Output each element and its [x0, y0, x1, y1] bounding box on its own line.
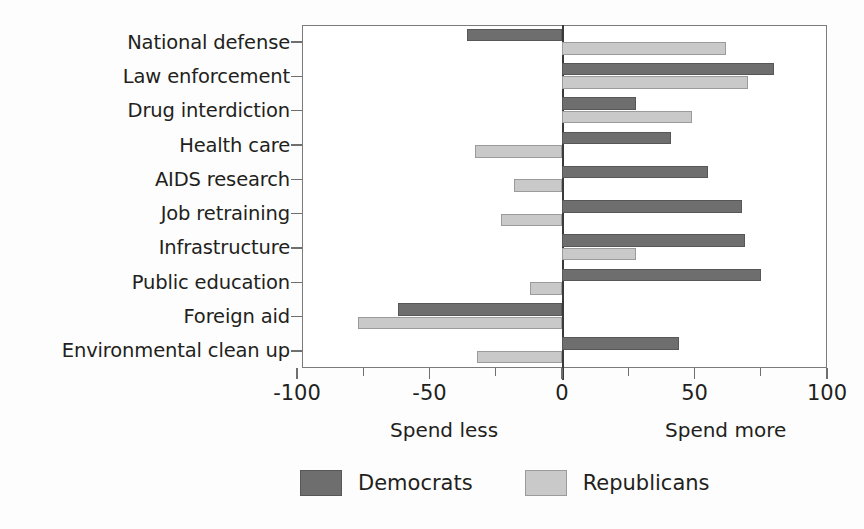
- x-axis-tick: [429, 368, 430, 379]
- y-axis-label: National defense: [127, 31, 302, 54]
- y-axis-label: Environmental clean up: [62, 339, 302, 362]
- x-axis-tick-label: -50: [385, 381, 475, 405]
- bar-rep-7: [530, 282, 562, 295]
- spend-more-note: Spend more: [665, 418, 786, 442]
- bar-dem-8: [398, 303, 562, 316]
- y-axis-category-row: Foreign aid: [0, 299, 302, 333]
- y-axis-category-row: National defense: [0, 25, 302, 59]
- bar-rep-0: [562, 42, 726, 55]
- x-axis-tick: [296, 368, 297, 379]
- y-axis-category-row: Environmental clean up: [0, 334, 302, 368]
- y-axis-tick: [291, 350, 302, 351]
- bar-rep-9: [477, 351, 562, 364]
- bar-rep-2: [562, 111, 692, 124]
- bar-rep-4: [514, 179, 562, 192]
- legend-swatch-republicans: [525, 470, 567, 496]
- legend-label-democrats: Democrats: [358, 471, 473, 495]
- y-axis-tick: [291, 41, 302, 42]
- y-axis-label: Foreign aid: [184, 305, 303, 328]
- y-axis-category-row: Health care: [0, 128, 302, 162]
- bar-rep-8: [358, 317, 562, 330]
- y-axis-tick: [291, 76, 302, 77]
- chart-legend: Democrats Republicans: [300, 470, 762, 496]
- bar-dem-4: [562, 166, 708, 179]
- x-axis-minor-tick: [363, 368, 364, 376]
- bar-dem-9: [562, 337, 679, 350]
- y-axis-tick: [291, 179, 302, 180]
- x-axis-tick: [561, 368, 562, 379]
- y-axis-label: Infrastructure: [159, 236, 302, 259]
- y-axis-tick: [291, 247, 302, 248]
- bar-dem-1: [562, 63, 774, 76]
- x-axis-tick-label: 50: [650, 381, 740, 405]
- x-axis-tick-label: 0: [517, 381, 607, 405]
- bar-dem-5: [562, 200, 742, 213]
- x-axis-tick: [826, 368, 827, 379]
- bar-dem-3: [562, 132, 671, 145]
- legend-item-democrats: Democrats: [300, 470, 473, 496]
- y-axis-tick: [291, 282, 302, 283]
- bar-dem-2: [562, 97, 636, 110]
- bar-dem-7: [562, 269, 761, 282]
- y-axis-label: Drug interdiction: [128, 99, 302, 122]
- bar-rep-1: [562, 76, 748, 89]
- y-axis-tick: [291, 144, 302, 145]
- bar-rep-6: [562, 248, 636, 261]
- y-axis-label: Law enforcement: [123, 65, 302, 88]
- x-axis-minor-tick: [760, 368, 761, 376]
- legend-item-republicans: Republicans: [525, 470, 710, 496]
- y-axis-category-row: Job retraining: [0, 197, 302, 231]
- y-axis-tick: [291, 316, 302, 317]
- y-axis-label: Health care: [179, 134, 302, 157]
- x-axis-tick-label: -100: [252, 381, 342, 405]
- x-axis-minor-tick: [628, 368, 629, 376]
- bar-dem-0: [467, 29, 562, 42]
- y-axis-category-row: AIDS research: [0, 162, 302, 196]
- y-axis-category-row: Law enforcement: [0, 59, 302, 93]
- spend-less-note: Spend less: [390, 418, 498, 442]
- x-axis-tick-label: 100: [782, 381, 864, 405]
- x-axis-tick: [694, 368, 695, 379]
- y-axis-label: Public education: [132, 271, 302, 294]
- bar-chart: National defenseLaw enforcementDrug inte…: [0, 0, 864, 529]
- legend-label-republicans: Republicans: [583, 471, 710, 495]
- x-axis-minor-tick: [495, 368, 496, 376]
- bar-dem-6: [562, 234, 745, 247]
- y-axis-tick: [291, 110, 302, 111]
- legend-swatch-democrats: [300, 470, 342, 496]
- bar-rep-5: [501, 214, 562, 227]
- y-axis-category-row: Drug interdiction: [0, 94, 302, 128]
- y-axis-label: AIDS research: [155, 168, 302, 191]
- y-axis-category-row: Infrastructure: [0, 231, 302, 265]
- y-axis-category-row: Public education: [0, 265, 302, 299]
- y-axis-tick: [291, 213, 302, 214]
- bar-rep-3: [475, 145, 562, 158]
- y-axis-label: Job retraining: [161, 202, 302, 225]
